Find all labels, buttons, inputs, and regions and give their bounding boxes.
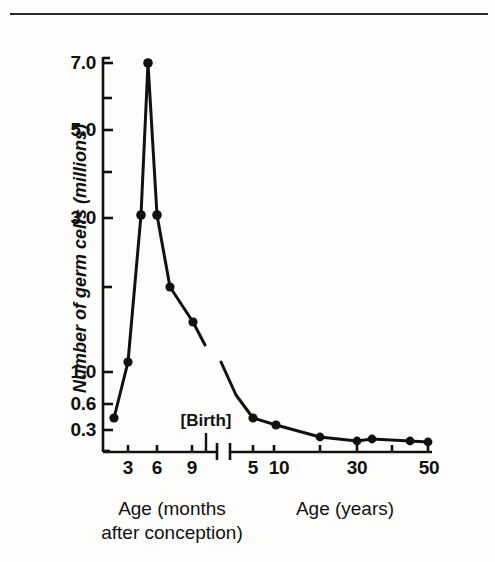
x-tick-label-30y: 30 xyxy=(347,457,368,479)
data-point xyxy=(316,433,325,442)
data-line-postnatal xyxy=(221,362,428,442)
data-point xyxy=(136,210,146,220)
x-tick-label-10y: 10 xyxy=(269,457,290,479)
data-point xyxy=(109,413,118,422)
figure-container: 7.0 5.0 3.0 1.0 0.6 0.3 3 6 9 5 10 30 50… xyxy=(0,0,495,562)
x-tick-label-6mo: 6 xyxy=(152,457,162,479)
data-point xyxy=(152,210,162,220)
data-point xyxy=(165,282,174,291)
data-point xyxy=(353,437,362,446)
data-point xyxy=(188,317,197,326)
x-axis-title-right: Age (years) xyxy=(245,497,445,521)
y-axis-ticks xyxy=(103,63,113,430)
data-point xyxy=(424,438,433,447)
x-tick-label-5y: 5 xyxy=(248,457,258,479)
x-tick-label-50y: 50 xyxy=(419,457,440,479)
data-markers-prenatal xyxy=(109,58,197,422)
y-axis-title: Number of germ cells (millions) xyxy=(70,109,91,409)
birth-annotation-label: [Birth] xyxy=(181,411,232,431)
data-point xyxy=(143,58,153,68)
data-point xyxy=(123,357,132,366)
x-tick-label-9mo: 9 xyxy=(187,457,197,479)
x-tick-label-3mo: 3 xyxy=(123,457,133,479)
y-tick-label-7.0: 7.0 xyxy=(44,52,96,74)
data-point xyxy=(271,420,280,429)
y-tick-label-0.3: 0.3 xyxy=(44,419,96,441)
data-point xyxy=(368,435,377,444)
data-point xyxy=(406,437,415,446)
data-point xyxy=(248,413,257,422)
